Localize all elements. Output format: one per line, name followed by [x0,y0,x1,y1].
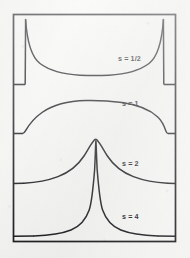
figure-root: s = 1/2 s = 1 s = 2 s = 4 [0,0,190,258]
label-s-2: s = 2 [122,159,139,168]
curve-s-half [26,20,164,76]
density-family-plot: s = 1/2 s = 1 s = 2 s = 4 [0,0,190,258]
plot-frame [14,15,176,242]
label-s-4: s = 4 [122,212,139,221]
curve-s-1 [23,101,169,134]
curve-group-s-4: s = 4 [14,140,176,236]
label-s-half: s = 1/2 [118,54,141,63]
curve-s-4 [34,140,158,236]
curve-group-s-half: s = 1/2 [14,20,176,85]
curve-group-s-1: s = 1 [14,99,176,134]
label-s-1: s = 1 [122,99,139,108]
